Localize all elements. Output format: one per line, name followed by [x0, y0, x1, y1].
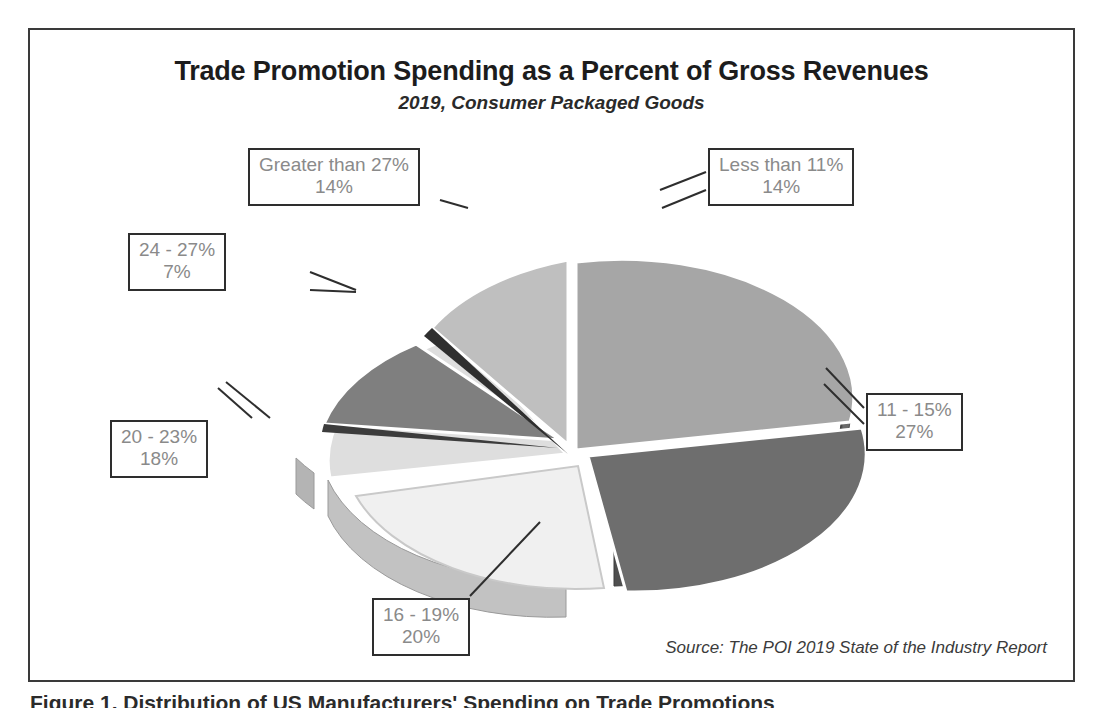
- pie-chart: [210, 140, 910, 640]
- callout-category: 24 - 27%: [139, 239, 215, 261]
- callout-24-27: 24 - 27% 7%: [128, 233, 226, 291]
- callout-greater-than-27: Greater than 27% 14%: [248, 148, 420, 206]
- chart-title: Trade Promotion Spending as a Percent of…: [30, 56, 1073, 87]
- callout-less-than-11: Less than 11% 14%: [708, 148, 854, 206]
- callout-11-15: 11 - 15% 27%: [866, 393, 963, 451]
- source-note: Source: The POI 2019 State of the Indust…: [665, 638, 1047, 658]
- figure-root: Trade Promotion Spending as a Percent of…: [0, 0, 1105, 708]
- callout-category: Less than 11%: [719, 154, 843, 176]
- callout-value: 27%: [877, 421, 952, 443]
- callout-value: 14%: [259, 176, 409, 198]
- callout-20-23: 20 - 23% 18%: [110, 420, 208, 478]
- pie-slice-11-15: [588, 428, 866, 592]
- callout-category: 20 - 23%: [121, 426, 197, 448]
- callout-16-19: 16 - 19% 20%: [372, 598, 470, 656]
- callout-value: 20%: [383, 626, 459, 648]
- pie-slices: [322, 259, 866, 592]
- callout-category: Greater than 27%: [259, 154, 409, 176]
- chart-frame: Trade Promotion Spending as a Percent of…: [28, 28, 1075, 682]
- callout-value: 18%: [121, 448, 197, 470]
- callout-category: 16 - 19%: [383, 604, 459, 626]
- callout-category: 11 - 15%: [877, 399, 952, 421]
- figure-caption: Figure 1. Distribution of US Manufacture…: [30, 690, 1080, 708]
- pie-slice-less-than-11: [576, 259, 854, 450]
- chart-subtitle: 2019, Consumer Packaged Goods: [30, 92, 1073, 114]
- callout-value: 14%: [719, 176, 843, 198]
- callout-value: 7%: [139, 261, 215, 283]
